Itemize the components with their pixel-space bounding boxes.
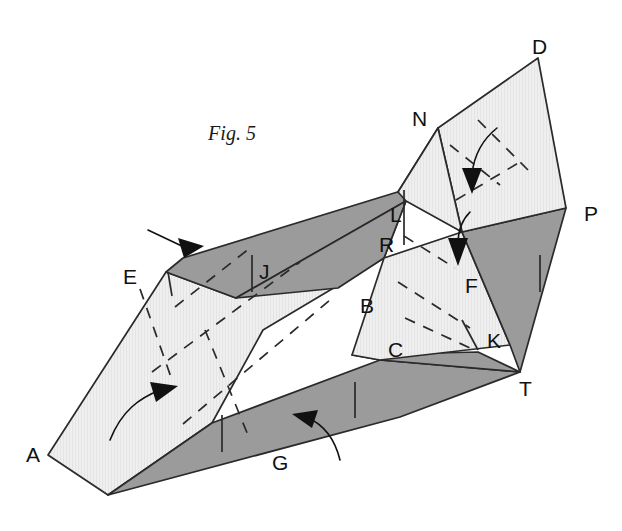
vertex-label-P: P	[584, 202, 598, 225]
vertex-label-G: G	[272, 451, 288, 474]
vertex-label-B: B	[360, 294, 374, 317]
vertex-label-N: N	[412, 107, 427, 130]
vertex-label-K: K	[487, 329, 501, 352]
vertex-label-T: T	[519, 377, 532, 400]
face-light-panel-N-D-P	[438, 58, 566, 232]
vertex-label-C: C	[388, 338, 403, 361]
vertex-label-E: E	[123, 265, 137, 288]
vertex-label-A: A	[26, 443, 40, 466]
vertex-label-D: D	[532, 35, 547, 58]
vertex-label-F: F	[465, 274, 478, 297]
vertex-label-R: R	[379, 233, 394, 256]
vertex-label-J: J	[259, 260, 270, 283]
diagram-svg: AEJLRBNDPFCKTG Fig. 5	[0, 0, 622, 531]
figure-caption: Fig. 5	[207, 122, 256, 145]
figure-canvas: AEJLRBNDPFCKTG Fig. 5	[0, 0, 622, 531]
vertex-label-L: L	[390, 203, 402, 226]
